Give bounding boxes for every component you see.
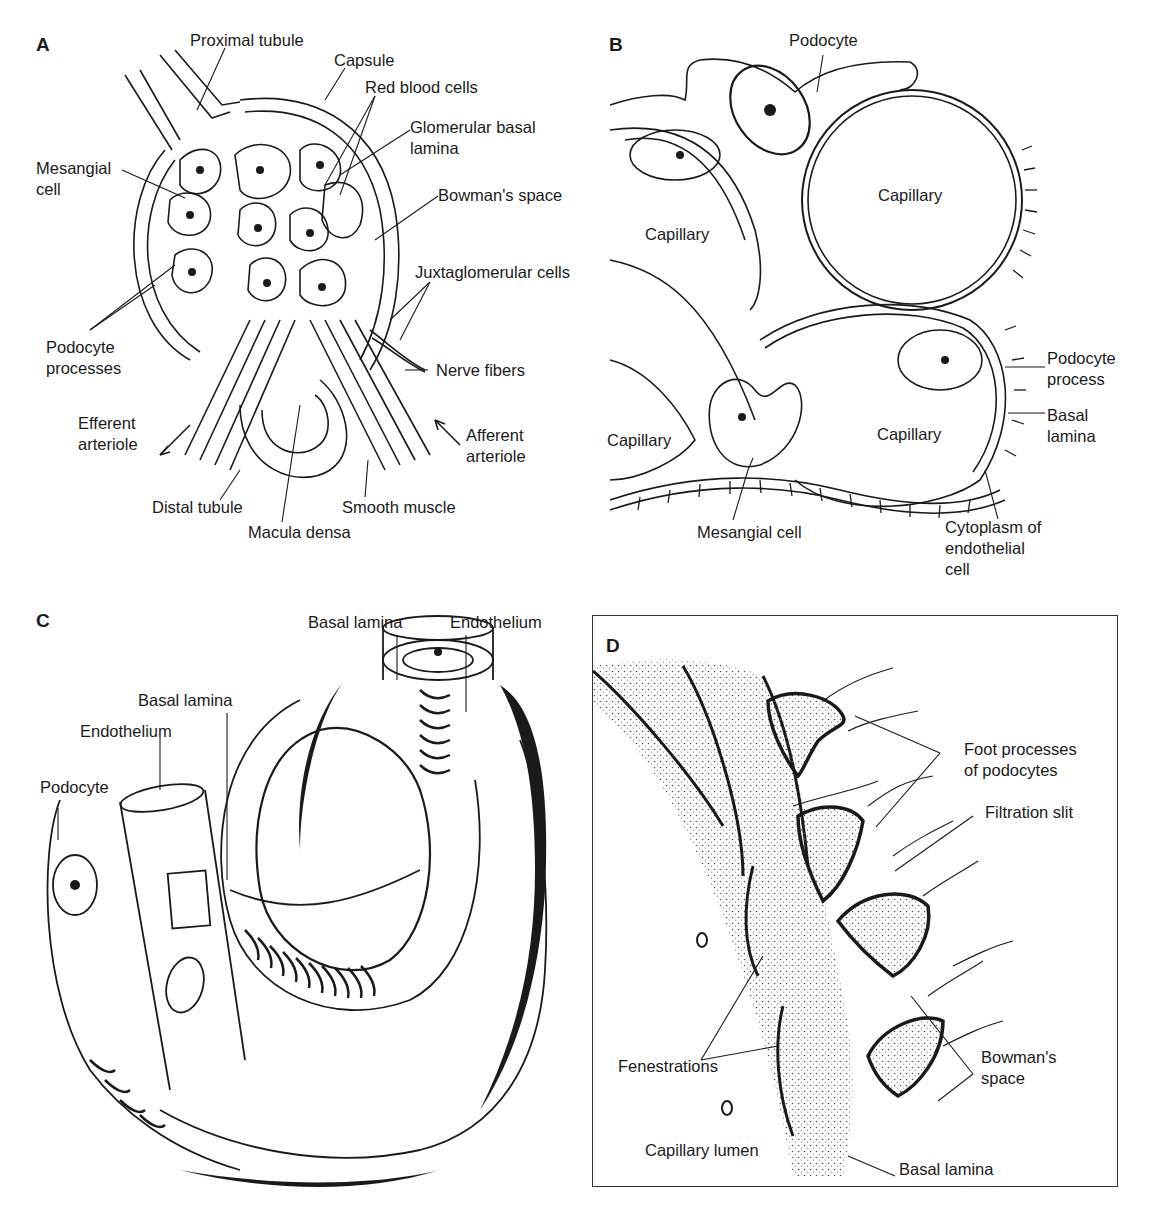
label-cytoplasm-endothelial-cell: Cytoplasm of endothelial cell	[945, 517, 1041, 580]
label-smooth-muscle: Smooth muscle	[342, 497, 456, 518]
label-capillary-top-left: Capillary	[645, 224, 709, 245]
label-basal-lamina-top: Basal lamina	[308, 612, 402, 633]
panel-d-filtration-barrier: D Foot processes of podocytes Filtration…	[592, 615, 1118, 1187]
label-macula-densa: Macula densa	[248, 522, 351, 543]
label-podocyte-process: Podocyte process	[1047, 348, 1116, 390]
label-basal-lamina: Basal lamina	[899, 1159, 993, 1180]
label-glomerular-basal-lamina: Glomerular basal lamina	[410, 117, 536, 159]
panel-letter-d: D	[606, 635, 620, 657]
label-capillary-bottom-left: Capillary	[607, 430, 671, 451]
label-mesangial-cell: Mesangial cell	[36, 158, 111, 200]
label-capillary-lumen: Capillary lumen	[645, 1140, 759, 1161]
label-podocyte: Podocyte	[40, 777, 109, 798]
capillary-cross-section-illustration	[580, 0, 1153, 590]
panel-letter-c: C	[36, 610, 50, 632]
label-basal-lamina-left: Basal lamina	[138, 690, 232, 711]
label-basal-lamina: Basal lamina	[1047, 405, 1096, 447]
label-endothelium-left: Endothelium	[80, 721, 172, 742]
label-mesangial-cell: Mesangial cell	[697, 522, 802, 543]
label-capsule: Capsule	[334, 50, 395, 71]
panel-letter-a: A	[36, 34, 50, 56]
label-endothelium-top: Endothelium	[450, 612, 542, 633]
label-nerve-fibers: Nerve fibers	[436, 360, 525, 381]
panel-letter-b: B	[609, 34, 623, 56]
panel-b-capillary-cross-section: B Podocyte Capillary Capillary Capillary…	[580, 0, 1153, 590]
label-capillary-top-right: Capillary	[878, 185, 942, 206]
filtration-barrier-illustration	[593, 616, 1119, 1188]
label-proximal-tubule: Proximal tubule	[190, 30, 304, 51]
label-fenestrations: Fenestrations	[618, 1056, 718, 1077]
label-juxtaglomerular-cells: Juxtaglomerular cells	[415, 262, 570, 283]
label-podocyte-processes: Podocyte processes	[46, 337, 121, 379]
label-foot-processes-of-podocytes: Foot processes of podocytes	[964, 739, 1077, 781]
label-red-blood-cells: Red blood cells	[365, 77, 478, 98]
label-filtration-slit: Filtration slit	[985, 802, 1073, 823]
label-afferent-arteriole: Afferent arteriole	[466, 425, 526, 467]
panel-c-3d-capillary-loop: C Basal lamina Endothelium Basal lamina …	[0, 590, 580, 1217]
label-capillary-bottom-right: Capillary	[877, 424, 941, 445]
glomerulus-illustration	[0, 0, 580, 590]
capillary-loop-illustration	[0, 590, 580, 1217]
panel-a-glomerulus-overview: A Proximal tubule Capsule Red blood cell…	[0, 0, 580, 590]
label-efferent-arteriole: Efferent arteriole	[78, 413, 138, 455]
label-distal-tubule: Distal tubule	[152, 497, 243, 518]
label-bowmans-space: Bowman's space	[438, 185, 562, 206]
label-podocyte: Podocyte	[789, 30, 858, 51]
label-bowmans-space: Bowman's space	[981, 1047, 1057, 1089]
